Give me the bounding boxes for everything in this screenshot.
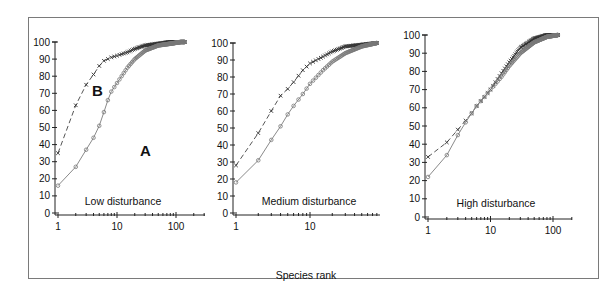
y-tick-label: 10	[409, 193, 421, 204]
y-tick-label: 80	[409, 66, 421, 77]
y-tick-label: 70	[217, 89, 229, 100]
y-tick-label: 20	[409, 175, 421, 186]
panel-title: High disturbance	[457, 197, 536, 209]
series-B-marker	[256, 131, 260, 135]
y-tick-label: 70	[409, 84, 421, 95]
panel-medium-disturbance: 0102030405060708090100110Medium disturba…	[211, 38, 380, 233]
y-tick-label: 90	[409, 48, 421, 59]
figure-plots: 0102030405060708090100110100Low disturba…	[0, 0, 612, 293]
series-B-marker	[84, 83, 88, 87]
y-tick-label: 60	[217, 106, 229, 117]
series-B-line	[58, 42, 185, 153]
panel-title: Low disturbance	[85, 195, 162, 207]
y-tick-label: 0	[222, 208, 228, 219]
y-tick-label: 30	[39, 156, 51, 167]
series-A-line	[428, 35, 558, 177]
y-tick-label: 70	[39, 88, 51, 99]
x-tick-label: 1	[55, 221, 61, 232]
panel-title: Medium disturbance	[262, 195, 357, 207]
y-tick-label: 90	[217, 55, 229, 66]
series-B-marker	[270, 109, 274, 113]
y-tick-label: 90	[39, 54, 51, 65]
series-B-marker	[106, 57, 110, 61]
y-tick-label: 30	[217, 157, 229, 168]
y-tick-label: 10	[39, 190, 51, 201]
y-tick-label: 0	[414, 212, 420, 223]
x-tick-label: 100	[168, 221, 185, 232]
x-tick-label: 10	[111, 221, 123, 232]
y-tick-label: 50	[217, 123, 229, 134]
y-tick-label: 60	[409, 102, 421, 113]
series-B-marker	[97, 64, 101, 68]
y-tick-label: 80	[217, 72, 229, 83]
series-B-line	[236, 43, 377, 165]
curve-label-B: B	[92, 82, 103, 99]
series-B-marker	[301, 68, 305, 72]
series-B-marker	[92, 73, 96, 77]
y-tick-label: 100	[403, 30, 420, 41]
y-tick-label: 10	[217, 191, 229, 202]
y-tick-label: 80	[39, 71, 51, 82]
series-B-line	[428, 35, 558, 157]
y-tick-label: 100	[33, 37, 50, 48]
series-B-marker	[279, 94, 283, 98]
series-B-marker	[286, 87, 290, 91]
curve-label-A: A	[140, 142, 151, 159]
series-B-marker	[292, 80, 296, 84]
y-tick-label: 50	[409, 121, 421, 132]
series-B-marker	[426, 155, 430, 159]
x-axis-title: Species rank	[0, 269, 612, 281]
y-tick-label: 50	[39, 122, 51, 133]
x-tick-label: 1	[425, 225, 431, 236]
series-B-marker	[305, 65, 309, 69]
x-tick-label: 100	[545, 225, 562, 236]
y-tick-label: 30	[409, 157, 421, 168]
y-tick-label: 20	[39, 173, 51, 184]
x-tick-label: 1	[233, 221, 239, 232]
y-tick-label: 40	[409, 139, 421, 150]
series-B-marker	[297, 74, 301, 78]
series-A-line	[58, 42, 185, 186]
series-B-marker	[234, 164, 238, 168]
y-tick-label: 40	[39, 139, 51, 150]
series-B-marker	[102, 59, 106, 63]
x-tick-label: 10	[485, 225, 497, 236]
panel-low-disturbance: 0102030405060708090100110100Low disturba…	[33, 37, 205, 233]
y-tick-label: 40	[217, 140, 229, 151]
panel-high-disturbance: 0102030405060708090100110100High disturb…	[403, 30, 572, 237]
series-B-marker	[456, 128, 460, 132]
y-tick-label: 20	[217, 174, 229, 185]
series-B-marker	[445, 141, 449, 145]
y-tick-label: 0	[44, 208, 50, 219]
y-tick-label: 60	[39, 105, 51, 116]
x-tick-label: 10	[304, 221, 316, 232]
y-tick-label: 100	[211, 38, 228, 49]
